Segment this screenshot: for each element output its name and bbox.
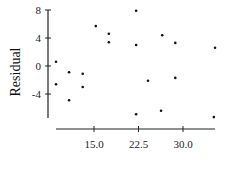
data-point xyxy=(94,25,97,28)
data-point xyxy=(174,77,177,80)
data-point xyxy=(108,33,111,36)
data-point xyxy=(135,44,138,47)
data-point xyxy=(214,47,217,50)
data-point xyxy=(160,110,163,113)
y-tick-label: 0 xyxy=(36,60,42,72)
x-axis: 15.022.530.0 xyxy=(56,126,215,150)
data-point xyxy=(55,83,58,86)
data-point xyxy=(81,86,84,89)
y-axis-title: Residual xyxy=(8,47,23,96)
data-point xyxy=(135,9,138,12)
y-axis: 840-4 xyxy=(32,4,51,118)
scatter-chart: 840-4 15.022.530.0 Residual xyxy=(0,0,232,171)
y-tick-label: -4 xyxy=(32,88,42,100)
data-point xyxy=(55,61,58,64)
x-tick-label: 30.0 xyxy=(173,138,193,150)
data-point xyxy=(81,72,84,75)
data-point xyxy=(174,42,177,45)
x-tick-label: 15.0 xyxy=(84,138,104,150)
data-point xyxy=(68,71,71,74)
x-tick-label: 22.5 xyxy=(129,138,149,150)
y-tick-label: 4 xyxy=(36,32,42,44)
data-point xyxy=(68,99,71,102)
data-point xyxy=(213,116,216,119)
data-point xyxy=(147,79,150,82)
y-tick-label: 8 xyxy=(36,4,42,16)
data-point xyxy=(161,34,164,37)
data-points xyxy=(55,9,217,118)
data-point xyxy=(135,113,138,116)
data-point xyxy=(108,41,111,44)
